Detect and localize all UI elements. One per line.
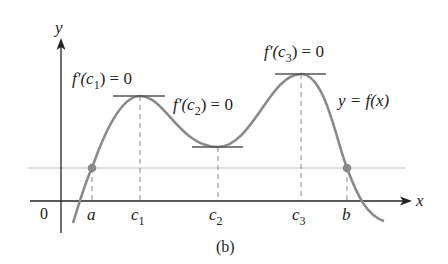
tick-c2: c2 bbox=[209, 205, 223, 228]
annotation-c2: f′(c2) = 0 bbox=[173, 95, 233, 118]
origin-label: 0 bbox=[40, 205, 48, 222]
figure-caption: (b) bbox=[216, 238, 235, 256]
diagram-canvas: y x 0 a c1 c2 c3 b f′(c1) = 0 f′(c2) = 0… bbox=[0, 0, 448, 264]
annotation-c1: f′(c1) = 0 bbox=[72, 69, 132, 92]
point-a bbox=[88, 164, 97, 173]
rolle-theorem-figure: y x 0 a c1 c2 c3 b f′(c1) = 0 f′(c2) = 0… bbox=[0, 0, 448, 264]
tick-b: b bbox=[342, 205, 351, 224]
tick-c1: c1 bbox=[131, 205, 145, 228]
dashed-guides bbox=[92, 74, 347, 201]
tick-a: a bbox=[87, 205, 96, 224]
point-b bbox=[343, 164, 352, 173]
tick-c3: c3 bbox=[292, 205, 306, 228]
y-axis-label: y bbox=[53, 18, 63, 37]
curve-label: y = f(x) bbox=[336, 91, 389, 110]
x-axis-label: x bbox=[415, 191, 424, 210]
annotation-c3: f′(c3) = 0 bbox=[264, 42, 324, 65]
